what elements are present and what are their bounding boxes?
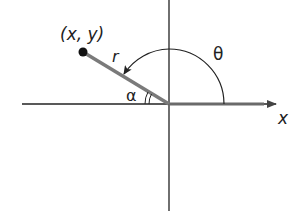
reference-angle-diagram: (x, y) r θ α x <box>0 0 304 211</box>
point-marker <box>79 48 88 57</box>
x-axis-label: x <box>277 108 289 128</box>
theta-label: θ <box>213 44 223 64</box>
alpha-label: α <box>126 86 137 105</box>
radius-label: r <box>112 47 120 66</box>
theta-arc <box>124 49 224 104</box>
alpha-arc-inner <box>149 94 152 104</box>
diagram-canvas: (x, y) r θ α x <box>0 0 304 211</box>
alpha-arc-outer <box>145 92 148 104</box>
point-label: (x, y) <box>60 24 104 44</box>
